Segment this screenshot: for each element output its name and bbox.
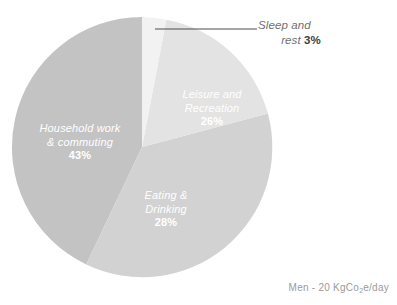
caption-subscript: 2	[359, 287, 363, 294]
callout-line1: Sleep and	[258, 19, 311, 31]
slice-label-line1: Eating &	[145, 189, 188, 201]
slice-label-line1: Leisure and	[182, 88, 241, 100]
callout-label-sleep-and-rest: Sleep and rest 3%	[258, 18, 392, 48]
slice-label-line2: Recreation	[185, 102, 240, 114]
slice-label-line1: Household work	[40, 122, 121, 134]
callout-line2: rest	[281, 34, 301, 46]
slice-label-line2: & commuting	[47, 136, 113, 148]
slice-label-eating-and-drinking: Eating & Drinking 28%	[116, 189, 216, 230]
caption-suffix: e/day	[363, 282, 389, 293]
slice-percent: 43%	[69, 149, 92, 161]
slice-label-household-work-and-commuting: Household work & commuting 43%	[18, 122, 142, 163]
pie-chart: Household work & commuting 43% Leisure a…	[0, 0, 397, 305]
callout-percent: 3%	[304, 34, 321, 46]
callout-line2-wrapper: rest 3%	[258, 33, 344, 48]
caption-prefix: Men - 20 KgCo	[289, 282, 360, 293]
slice-label-line2: Drinking	[145, 203, 187, 215]
slice-label-leisure-and-recreation: Leisure and Recreation 26%	[160, 88, 264, 129]
slice-percent: 26%	[201, 115, 224, 127]
chart-caption: Men - 20 KgCo2e/day	[289, 282, 389, 293]
slice-percent: 28%	[155, 216, 178, 228]
